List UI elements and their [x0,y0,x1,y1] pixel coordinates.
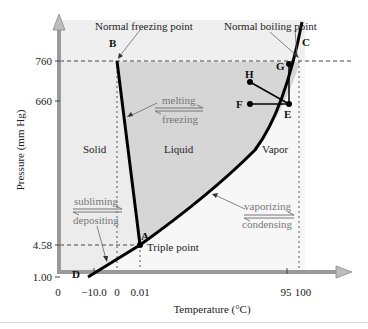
y-tick-458: 4.58 [33,239,53,251]
x-tick-0-origin: 0 [55,286,61,298]
y-tick-100: 1.00 [33,271,53,283]
point-A [137,242,143,248]
point-G [286,61,292,67]
label-E: E [284,108,291,120]
y-axis-label: Pressure (mm Hg) [14,109,27,190]
y-tick-660: 660 [36,95,53,107]
x-tick-0: 0 [114,286,120,298]
normal-boiling-label: Normal boiling point [224,20,317,32]
liquid-region-label: Liquid [164,143,194,155]
label-G: G [276,60,285,72]
condensing-label: condensing [242,218,293,230]
label-C: C [302,36,310,48]
depositing-label: depositing [73,214,119,226]
x-tick-100: 100 [295,286,312,298]
label-B: B [109,37,117,49]
solid-region-label: Solid [83,143,107,155]
freezing-label: freezing [162,113,199,125]
normal-freezing-label: Normal freezing point [95,20,193,32]
y-axis [57,28,61,274]
phase-diagram: Normal freezing point Normal boiling poi… [0,0,368,329]
label-F: F [236,98,243,110]
label-D: D [72,268,80,280]
x-tick-minus10: −10.0 [81,286,107,298]
bottom-divider [0,322,368,323]
x-tick-001: 0.01 [130,286,149,298]
triple-point-label: Triple point [147,241,199,253]
point-E [286,101,292,107]
x-axis-label: Temperature (°C) [173,303,251,316]
point-F [247,101,253,107]
label-H: H [245,68,254,80]
y-tick-760: 760 [36,55,53,67]
vaporizing-label: vaporizing [244,200,292,212]
x-tick-95: 95 [281,286,293,298]
vapor-region-label: Vapor [262,143,289,155]
subliming-label: subliming [74,195,119,207]
melting-label: melting [162,94,196,106]
